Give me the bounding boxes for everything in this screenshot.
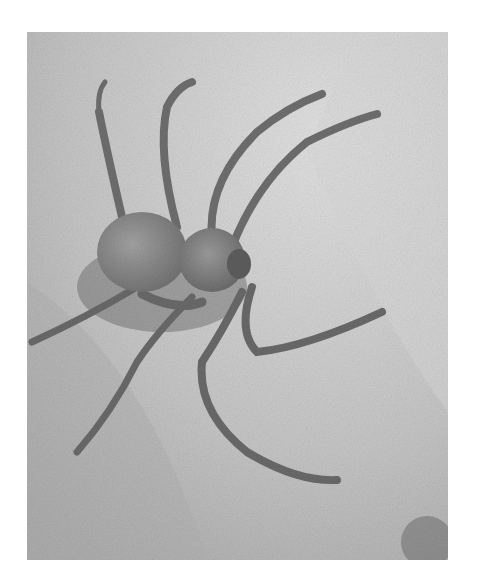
spider-photo [27,32,448,560]
spider-illustration [27,32,448,560]
